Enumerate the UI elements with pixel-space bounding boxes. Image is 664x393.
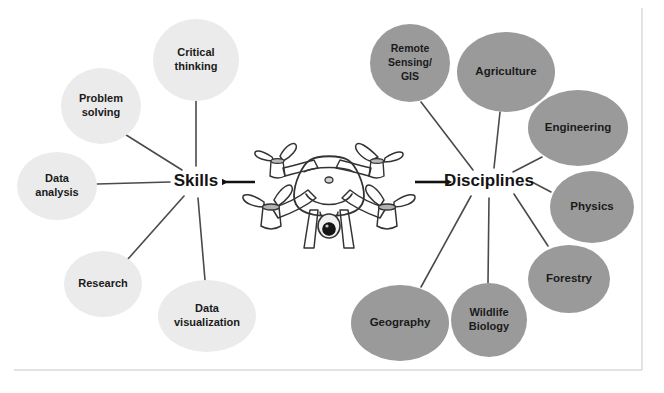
drone-status-led-icon bbox=[325, 177, 333, 183]
label-line: Sensing/ bbox=[388, 56, 432, 68]
edges-layer bbox=[97, 101, 551, 287]
discipline-node-wildlife-biology[interactable]: WildlifeBiology bbox=[451, 283, 527, 357]
edge-disciplines-to-agriculture bbox=[494, 112, 500, 168]
edge-disciplines-to-engineering bbox=[513, 157, 542, 172]
label-line: Research bbox=[78, 277, 128, 289]
label-line: Agriculture bbox=[475, 65, 536, 77]
discipline-node-label: Engineering bbox=[545, 121, 611, 133]
skill-node-critical-thinking[interactable]: Criticalthinking bbox=[153, 19, 239, 101]
edge-skills-to-data-visualization bbox=[198, 198, 205, 280]
edge-disciplines-to-remote-sensing-gis bbox=[421, 102, 473, 170]
label-line: Wildlife bbox=[469, 306, 508, 318]
label-line: Data bbox=[45, 172, 70, 184]
hub-label-skills[interactable]: Skills bbox=[174, 171, 218, 190]
label-line: Forestry bbox=[546, 272, 593, 284]
label-line: Biology bbox=[469, 320, 510, 332]
discipline-node-physics[interactable]: Physics bbox=[550, 171, 634, 243]
skill-node-data-analysis[interactable]: Dataanalysis bbox=[17, 152, 97, 220]
discipline-node-label: Geography bbox=[370, 316, 431, 328]
concept-map-svg: CriticalthinkingProblemsolvingDataanalys… bbox=[0, 0, 664, 393]
label-line: Critical bbox=[177, 46, 214, 58]
hub-label-disciplines[interactable]: Disciplines bbox=[444, 171, 534, 190]
skill-node-problem-solving[interactable]: Problemsolving bbox=[61, 68, 141, 144]
gimbal-camera-icon bbox=[318, 212, 340, 238]
disciplines-node-group: RemoteSensing/GISAgricultureEngineeringP… bbox=[351, 24, 634, 361]
diagram-canvas: CriticalthinkingProblemsolvingDataanalys… bbox=[0, 0, 664, 393]
edge-skills-to-problem-solving bbox=[123, 133, 182, 170]
label-line: thinking bbox=[175, 60, 218, 72]
edge-skills-to-data-analysis bbox=[97, 182, 170, 184]
discipline-node-label: Agriculture bbox=[475, 65, 536, 77]
label-line: Engineering bbox=[545, 121, 611, 133]
skill-node-research[interactable]: Research bbox=[64, 251, 142, 317]
label-line: GIS bbox=[401, 70, 419, 82]
label-line: Remote bbox=[391, 42, 430, 54]
label-line: Geography bbox=[370, 316, 431, 328]
discipline-node-label: Forestry bbox=[546, 272, 593, 284]
discipline-node-label: Physics bbox=[570, 200, 613, 212]
edge-disciplines-to-physics bbox=[532, 182, 551, 192]
skill-node-data-visualization[interactable]: Datavisualization bbox=[158, 280, 256, 352]
label-line: visualization bbox=[174, 316, 240, 328]
discipline-node-remote-sensing-gis[interactable]: RemoteSensing/GIS bbox=[370, 24, 450, 102]
edge-skills-to-research bbox=[128, 196, 184, 259]
drone-body-seam bbox=[304, 168, 354, 173]
label-line: Data bbox=[195, 302, 220, 314]
motor-front-left-icon bbox=[261, 204, 281, 229]
edge-disciplines-to-geography bbox=[421, 196, 471, 287]
skill-node-label: Research bbox=[78, 277, 128, 289]
discipline-node-geography[interactable]: Geography bbox=[351, 285, 449, 361]
skills-node-group: CriticalthinkingProblemsolvingDataanalys… bbox=[17, 19, 256, 352]
edge-disciplines-to-wildlife-biology bbox=[488, 198, 489, 283]
label-line: solving bbox=[82, 106, 121, 118]
edge-disciplines-to-forestry bbox=[514, 194, 548, 246]
motor-front-right-icon bbox=[377, 204, 397, 229]
discipline-node-engineering[interactable]: Engineering bbox=[528, 90, 628, 166]
drone-illustration bbox=[243, 143, 415, 248]
drone-body bbox=[294, 156, 364, 216]
label-line: Physics bbox=[570, 200, 613, 212]
label-line: analysis bbox=[35, 186, 78, 198]
label-line: Problem bbox=[79, 92, 123, 104]
discipline-node-agriculture[interactable]: Agriculture bbox=[457, 32, 555, 112]
discipline-node-forestry[interactable]: Forestry bbox=[528, 245, 610, 313]
